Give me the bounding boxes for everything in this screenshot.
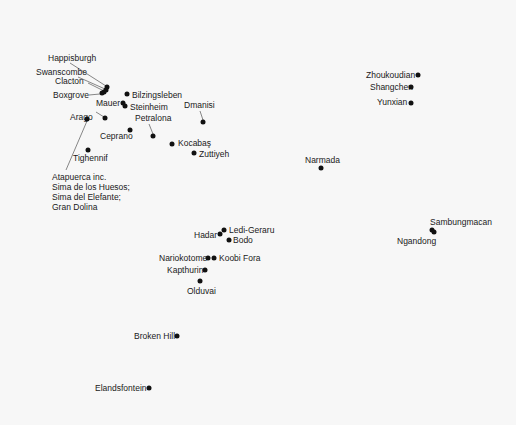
- site-marker-yunxian: [409, 101, 414, 106]
- site-label-elandsfontein: Elandsfontein: [95, 383, 147, 393]
- site-marker-elandsfontein: [147, 386, 152, 391]
- site-label-ceprano: Ceprano: [100, 131, 133, 141]
- site-marker-koobi-fora: [212, 256, 217, 261]
- site-label-boxgrove: Boxgrove: [53, 90, 89, 100]
- leader-lines: [0, 0, 516, 425]
- site-marker-bilzingsleben: [125, 92, 130, 97]
- site-marker-ngandong: [432, 230, 437, 235]
- site-label-zhoukoudian: Zhoukoudian: [366, 70, 415, 80]
- site-marker-steinheim: [123, 104, 128, 109]
- site-marker-olduvai: [198, 279, 203, 284]
- site-label-clacton: Clacton: [55, 76, 84, 86]
- site-label-sambungmacan: Sambungmacan: [430, 217, 492, 227]
- site-label-shangchen: Shangchen: [370, 82, 413, 92]
- site-label-yunxian: Yunxian: [377, 97, 407, 107]
- site-label-nariokotome: Nariokotome: [159, 253, 207, 263]
- site-label-koobi-fora: Koobi Fora: [219, 253, 261, 263]
- site-marker-narmada: [319, 166, 324, 171]
- site-label-steinheim: Steinheim: [130, 102, 168, 112]
- site-label-broken-hill: Broken Hill: [134, 331, 175, 341]
- site-label-kapthurin: Kapthurin: [167, 265, 203, 275]
- site-label-atapuerca-inc: Atapuerca inc. Sima de los Huesos; Sima …: [52, 172, 130, 212]
- site-label-dmanisi: Dmanisi: [184, 100, 215, 110]
- site-label-bilzingsleben: Bilzingsleben: [132, 90, 182, 100]
- site-label-ngandong: Ngandong: [397, 236, 436, 246]
- site-label-olduvai: Olduvai: [187, 286, 216, 296]
- site-marker-ledi-geraru: [222, 228, 227, 233]
- site-marker-hadar: [218, 232, 223, 237]
- site-marker-kocaba: [170, 142, 175, 147]
- site-marker-zhoukoudian: [416, 73, 421, 78]
- site-marker-arago: [103, 116, 108, 121]
- site-label-kocaba: Kocabaş: [178, 138, 211, 148]
- site-marker-atapuerca-inc: [85, 117, 90, 122]
- site-label-zuttiyeh: Zuttiyeh: [199, 149, 229, 159]
- site-label-narmada: Narmada: [305, 155, 340, 165]
- site-label-bodo: Bodo: [233, 235, 253, 245]
- site-label-happisburgh: Happisburgh: [48, 53, 96, 63]
- site-marker-dmanisi: [201, 120, 206, 125]
- site-marker-tighennif: [86, 148, 91, 153]
- site-marker-zuttiyeh: [192, 151, 197, 156]
- site-marker-bodo: [227, 238, 232, 243]
- site-label-petralona: Petralona: [135, 113, 171, 123]
- site-label-tighennif: Tighennif: [73, 153, 108, 163]
- site-label-hadar: Hadar: [194, 230, 217, 240]
- site-label-mauer: Mauer: [96, 98, 120, 108]
- hominin-sites-map: HappisburghSwanscombeClactonBoxgroveBilz…: [0, 0, 516, 425]
- site-marker-broken-hill: [175, 334, 180, 339]
- site-marker-petralona: [151, 134, 156, 139]
- site-label-ledi-geraru: Ledi-Geraru: [229, 225, 274, 235]
- site-marker-boxgrove: [100, 91, 105, 96]
- leader-line-boxgrove: [89, 94, 100, 95]
- leader-line-petralona: [149, 124, 153, 134]
